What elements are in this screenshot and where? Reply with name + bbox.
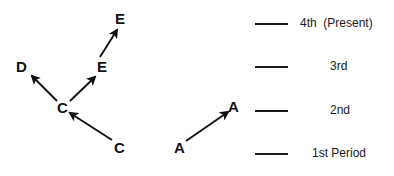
legend-3rd-label: 3rd — [330, 60, 347, 72]
legend-4th-label: 4th (Present) — [300, 17, 373, 29]
legend-1st-label: 1st Period — [312, 147, 366, 159]
arrow-c-to-e — [70, 77, 95, 101]
legend-4th-rule — [255, 23, 288, 25]
arrow-c-to-d — [32, 76, 57, 101]
node-c-bottom: C — [114, 140, 125, 155]
node-a-top: A — [228, 99, 239, 114]
arrow-a-to-a — [186, 112, 228, 141]
node-c-mid: C — [57, 100, 68, 115]
legend-2nd-label: 2nd — [330, 104, 350, 116]
arrow-e-to-e — [100, 30, 117, 57]
node-e-top: E — [115, 11, 125, 26]
node-d: D — [16, 59, 27, 74]
legend-2nd-rule — [255, 110, 288, 112]
legend-3rd-rule — [255, 66, 288, 68]
node-e-mid: E — [97, 59, 107, 74]
legend-1st-rule — [255, 153, 288, 155]
arrow-c-bottom-to-c — [70, 113, 112, 140]
phase-diagram-figure: EEDCCAA 4th (Present)3rd2nd1st Period — [0, 0, 394, 176]
node-a-bottom: A — [174, 140, 185, 155]
